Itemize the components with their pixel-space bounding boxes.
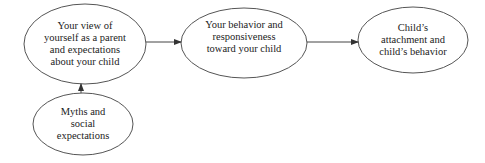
node-line: about your child — [51, 56, 120, 68]
node-line: Child’s — [398, 22, 428, 34]
node-line: responsiveness — [213, 31, 276, 43]
node-line: and expectations — [50, 44, 120, 56]
node-self-view-label: Your view of yourself as a parent and ex… — [24, 4, 146, 84]
node-behavior-label: Your behavior and responsiveness toward … — [181, 8, 307, 66]
node-line: Myths and — [61, 106, 106, 118]
node-line: child’s behavior — [379, 46, 446, 58]
node-line: expectations — [57, 130, 109, 142]
node-line: attachment and — [381, 34, 445, 46]
node-line: Your behavior and — [205, 19, 283, 31]
node-line: social — [71, 118, 96, 130]
node-child-label: Child’s attachment and child’s behavior — [358, 7, 468, 73]
node-line: toward your child — [207, 43, 282, 55]
node-line: yourself as a parent — [44, 32, 126, 44]
node-line: Your view of — [58, 20, 113, 32]
node-myths-label: Myths and social expectations — [33, 93, 133, 155]
